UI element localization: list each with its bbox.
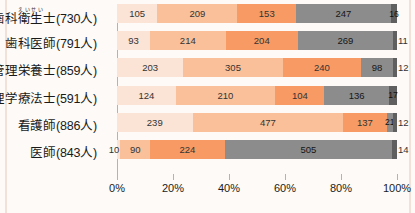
bar-row: 管理栄養士(859人)2033052409812 — [117, 58, 397, 77]
bar-segment: 21 — [387, 113, 394, 132]
x-tick — [341, 174, 342, 180]
bar-segment: 17 — [389, 86, 397, 105]
bar-segment: 505 — [225, 140, 393, 159]
bar-segment: 104 — [275, 86, 324, 105]
bar-segment-label: 12 — [398, 58, 409, 77]
category-label: 看護師(886人) — [0, 115, 97, 134]
bar-segment: 214 — [150, 31, 226, 50]
bar-segment: 269 — [298, 31, 393, 50]
category-label: 医師(843人) — [0, 142, 97, 161]
x-tick-label: 20% — [162, 182, 184, 194]
bar-segment — [393, 113, 397, 132]
bar-segment: 239 — [117, 113, 193, 132]
bar-segment-label: 10 — [109, 140, 120, 159]
bar-segment-label: 11 — [398, 31, 408, 50]
stacked-bar: 20330524098 — [117, 58, 397, 77]
x-tick-label: 80% — [330, 182, 352, 194]
bar-segment — [392, 140, 397, 159]
bar-segment-label: 14 — [398, 140, 409, 159]
stacked-bar: 10520915324716 — [117, 4, 397, 23]
x-tick-label: 0% — [109, 182, 125, 194]
stacked-bar: 23947713721 — [117, 113, 397, 132]
x-tick — [117, 174, 118, 180]
bar-segment — [393, 58, 397, 77]
bar-row: 歯科衛生えいせい士(730人)10520915324716 — [117, 4, 397, 23]
bar-segment: 210 — [176, 86, 275, 105]
stacked-bar-chart: 歯科衛生えいせい士(730人)10520915324716歯科医師(791人)9… — [0, 0, 415, 213]
category-label: 管理栄養士(859人) — [0, 60, 97, 79]
bar-segment: 204 — [226, 31, 298, 50]
x-tick-label: 100% — [383, 182, 411, 194]
stacked-bar: 93214204269 — [117, 31, 397, 50]
bar-segment: 16 — [391, 4, 397, 23]
x-tick — [397, 174, 398, 180]
category-label: 歯科医師(791人) — [0, 33, 97, 52]
plot-area: 歯科衛生えいせい士(730人)10520915324716歯科医師(791人)9… — [117, 4, 397, 174]
x-tick — [229, 174, 230, 180]
bar-segment: 136 — [324, 86, 388, 105]
bar-segment-label: 12 — [398, 113, 409, 132]
category-label: 理学療法士(591人) — [0, 88, 97, 107]
bar-segment: 98 — [361, 58, 393, 77]
bar-segment: 153 — [237, 4, 296, 23]
bar-segment: 203 — [117, 58, 183, 77]
bar-segment: 477 — [193, 113, 344, 132]
bar-segment: 137 — [343, 113, 386, 132]
bar-segment: 209 — [157, 4, 237, 23]
bar-segment: 247 — [296, 4, 391, 23]
category-label: 歯科衛生えいせい士(730人) — [0, 6, 97, 27]
stacked-bar: 90224505 — [117, 140, 397, 159]
bar-segment: 305 — [183, 58, 283, 77]
x-tick-label: 60% — [274, 182, 296, 194]
bar-row: 理学療法士(591人)12421010413617 — [117, 86, 397, 105]
x-tick-label: 40% — [218, 182, 240, 194]
x-tick — [285, 174, 286, 180]
bar-segment: 90 — [120, 140, 150, 159]
bar-row: 看護師(886人)2394771372112 — [117, 113, 397, 132]
bar-row: 歯科医師(791人)9321420426911 — [117, 31, 397, 50]
x-tick — [173, 174, 174, 180]
bar-segment — [393, 31, 397, 50]
bar-segment: 224 — [150, 140, 224, 159]
x-axis-labels: 0%20%40%60%80%100% — [117, 182, 397, 204]
bar-segment: 240 — [283, 58, 361, 77]
bar-row: 医師(843人)902245051014 — [117, 140, 397, 159]
bar-segment: 105 — [117, 4, 157, 23]
bar-segment: 124 — [117, 86, 176, 105]
bar-segment: 93 — [117, 31, 150, 50]
stacked-bar: 12421010413617 — [117, 86, 397, 105]
